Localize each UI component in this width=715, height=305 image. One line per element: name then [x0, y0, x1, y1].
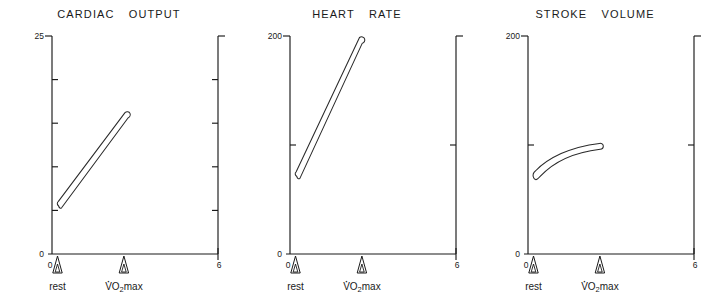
y-min-label: 0	[515, 249, 520, 259]
x-max-label: 6	[455, 260, 460, 270]
rest-label: rest	[266, 281, 326, 292]
vo2max-marker-inner-icon	[122, 264, 127, 272]
v-dot-icon: V	[343, 281, 350, 292]
vo2max-marker-inner-icon	[360, 264, 365, 272]
x-max-label: 6	[693, 260, 698, 270]
vo2max-label: VO2max	[89, 281, 159, 294]
plot-area-cardiac-output: 25 0 0 6	[0, 0, 238, 305]
vo2max-o: O	[350, 281, 358, 292]
vo2max-label: VO2max	[327, 281, 397, 294]
vo2max-o: O	[588, 281, 596, 292]
vo2max-o: O	[112, 281, 120, 292]
plot-area-heart-rate: 200 0 0 6	[238, 0, 476, 305]
rest-label: rest	[504, 281, 564, 292]
vo2max-marker-inner-icon	[598, 264, 603, 272]
vo2max-label: VO2max	[565, 281, 635, 294]
y-max-label: 25	[35, 31, 45, 41]
y-min-label: 0	[39, 249, 44, 259]
vo2max-max: max	[124, 281, 143, 292]
vo2max-max: max	[600, 281, 619, 292]
rest-marker-inner-icon	[531, 264, 536, 272]
vo2max-max: max	[362, 281, 381, 292]
panel-cardiac-output: CARDIAC OUTPUT	[0, 0, 238, 305]
rest-marker-inner-icon	[293, 264, 298, 272]
x-min-label: 0	[48, 260, 53, 270]
panel-stroke-volume: STROKE VOLUME 200 0 0 6 rest VO2max	[476, 0, 714, 305]
x-max-label: 6	[217, 260, 222, 270]
rest-label: rest	[28, 281, 88, 292]
panel-heart-rate: HEART RATE 200 0 0 6 rest VO2max	[238, 0, 476, 305]
x-min-label: 0	[524, 260, 529, 270]
y-max-label: 200	[506, 31, 520, 41]
physiology-figure: CARDIAC OUTPUT	[0, 0, 715, 305]
x-min-label: 0	[286, 260, 291, 270]
y-min-label: 0	[277, 249, 282, 259]
data-band-stroke-volume	[533, 143, 603, 179]
v-dot-icon: V	[105, 281, 112, 292]
data-band-heart-rate	[295, 37, 365, 179]
v-dot-icon: V	[581, 281, 588, 292]
plot-area-stroke-volume: 200 0 0 6	[476, 0, 714, 305]
rest-marker-inner-icon	[55, 264, 60, 272]
data-band-cardiac-output	[57, 112, 130, 208]
y-max-label: 200	[268, 31, 282, 41]
